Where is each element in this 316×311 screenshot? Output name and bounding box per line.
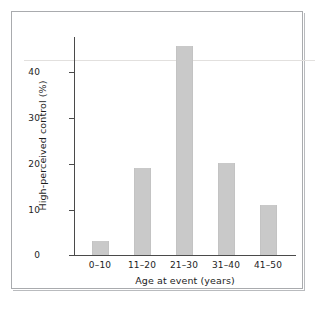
y-axis-title: High-perceived control (%): [37, 46, 48, 246]
y-axis-tick-40: [69, 72, 74, 73]
scan-line-artifact: [24, 60, 315, 61]
x-axis-tick-label-41-50: 41–50: [238, 260, 298, 270]
figure-frame: 0 10 20 30 40 0–10 11–20 21–30 31–40 41–…: [11, 11, 303, 289]
y-axis-tick-0: [69, 255, 74, 256]
bar-21-30: [176, 46, 193, 255]
figure-frame-shadow-bottom: [13, 290, 305, 291]
bar-11-20: [134, 168, 151, 255]
figure-frame-shadow-right: [304, 13, 305, 291]
y-axis-tick-20: [69, 164, 74, 165]
y-axis-line: [74, 37, 75, 256]
bar-31-40: [218, 163, 235, 255]
x-axis-title: Age at event (years): [74, 275, 296, 286]
bar-0-10: [92, 241, 109, 255]
y-axis-tick-30: [69, 118, 74, 119]
x-axis-line: [74, 255, 296, 256]
bar-41-50: [260, 205, 277, 255]
figure-root: 0 10 20 30 40 0–10 11–20 21–30 31–40 41–…: [0, 0, 316, 311]
y-axis-tick-label-0: 0: [34, 251, 40, 260]
y-axis-tick-10: [69, 210, 74, 211]
